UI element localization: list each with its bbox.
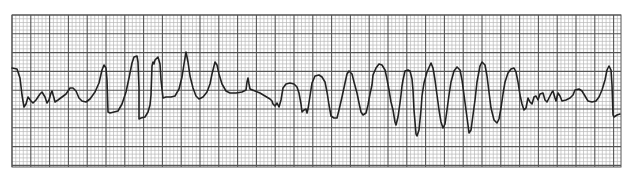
ecg-strip <box>0 0 630 180</box>
